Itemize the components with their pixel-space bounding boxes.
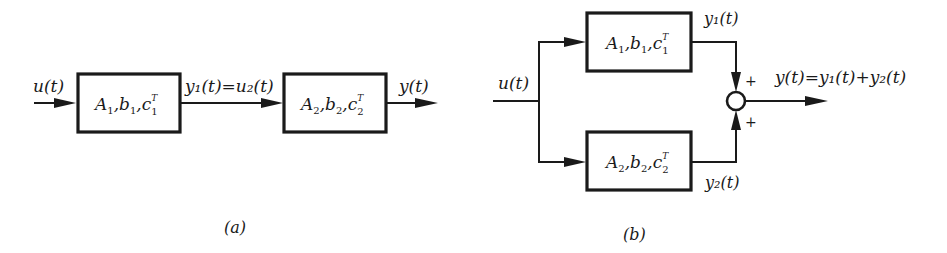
input-arrow-icon bbox=[54, 98, 76, 108]
output-label-sum: y(t)=y₁(t)+y₂(t) bbox=[774, 67, 906, 87]
upper-branch-arrow-icon bbox=[564, 37, 586, 47]
block-upper-label: A1,b1,cT1 bbox=[604, 32, 669, 56]
lower-output-line bbox=[692, 118, 736, 162]
link-arrow-icon bbox=[261, 98, 283, 108]
upper-output-label-y1: y₁(t) bbox=[703, 9, 738, 28]
output-arrow-icon bbox=[415, 98, 438, 108]
input-label-u: u(t) bbox=[33, 76, 64, 96]
sum-sign-upper: + bbox=[745, 73, 757, 89]
sum-sign-lower: + bbox=[745, 114, 757, 130]
block-2-label: A2,b2,cT2 bbox=[299, 93, 364, 117]
output-arrow-b-icon bbox=[805, 96, 828, 106]
lower-output-label-y2: y₂(t) bbox=[704, 173, 739, 192]
lower-sum-arrow-icon bbox=[731, 110, 741, 130]
lower-branch-arrow-icon bbox=[564, 157, 586, 167]
output-label-y: y(t) bbox=[398, 76, 429, 96]
link-label-y1-u2: y₁(t)=u₂(t) bbox=[184, 76, 274, 96]
diagram-a-series: u(t) A1,b1,cT1 y₁(t)=u₂(t) A2,b2,cT2 y(t… bbox=[33, 74, 438, 237]
block-1-label: A1,b1,cT1 bbox=[93, 93, 158, 117]
input-label-u-b: u(t) bbox=[498, 73, 529, 93]
summing-junction-icon bbox=[727, 92, 745, 110]
block-lower-label: A2,b2,cT2 bbox=[604, 151, 669, 175]
block-diagram-canvas: u(t) A1,b1,cT1 y₁(t)=u₂(t) A2,b2,cT2 y(t… bbox=[0, 0, 947, 253]
caption-a: (a) bbox=[224, 218, 246, 237]
caption-b: (b) bbox=[623, 225, 646, 244]
diagram-b-parallel: u(t) A1,b1,cT1 A2,b2,cT2 y₁(t) + y₂(t) + bbox=[493, 9, 906, 244]
upper-output-line bbox=[692, 42, 736, 84]
upper-sum-arrow-icon bbox=[731, 72, 741, 92]
